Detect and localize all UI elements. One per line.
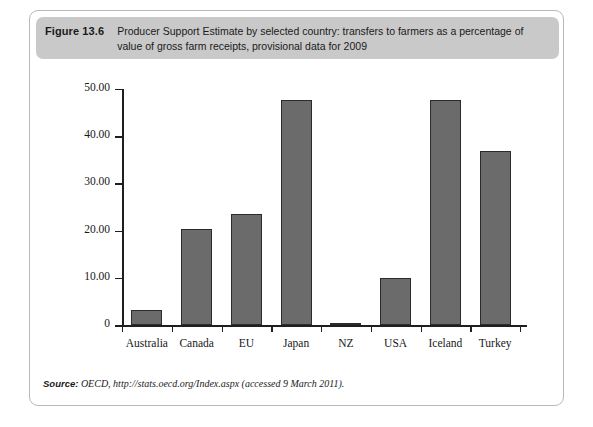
figure-header-banner: Figure 13.6 Producer Support Estimate by… — [36, 17, 559, 59]
y-axis-tick-label: 20.00 — [84, 223, 110, 235]
figure-source: Source: OECD, http://stats.oecd.org/Inde… — [43, 378, 344, 389]
chart-plot-area: 010.0020.0030.0040.0050.00 AustraliaCana… — [30, 67, 563, 357]
x-axis-tick — [222, 325, 223, 332]
y-axis-tick: 10.00 — [115, 278, 122, 279]
bar-turkey — [480, 151, 511, 325]
category-label-nz: NZ — [338, 337, 353, 349]
category-label-eu: EU — [239, 337, 254, 349]
source-label: Source: — [43, 378, 78, 389]
y-axis-tick-label: 50.00 — [84, 81, 110, 93]
y-axis-tick: 20.00 — [115, 231, 122, 232]
plot-canvas: 010.0020.0030.0040.0050.00 AustraliaCana… — [122, 89, 520, 325]
x-axis-tick — [172, 325, 173, 332]
x-axis-tick — [321, 325, 322, 332]
y-axis-tick-label: 30.00 — [84, 175, 110, 187]
category-label-usa: USA — [384, 337, 407, 349]
bar-iceland — [430, 100, 461, 325]
y-axis-line — [122, 89, 124, 325]
figure-caption-text: Producer Support Estimate by selected co… — [117, 24, 549, 53]
x-axis-tick — [421, 325, 422, 332]
category-label-iceland: Iceland — [428, 337, 462, 349]
category-label-canada: Canada — [179, 337, 213, 349]
figure-number-label: Figure 13.6 — [45, 24, 104, 38]
figure-card: Figure 13.6 Producer Support Estimate by… — [29, 10, 564, 406]
y-axis-tick-label: 10.00 — [84, 270, 110, 282]
category-label-australia: Australia — [126, 337, 168, 349]
x-axis-tick — [122, 325, 123, 332]
bar-usa — [380, 278, 411, 325]
bar-canada — [181, 229, 212, 325]
bar-australia — [131, 310, 162, 325]
x-axis-tick — [470, 325, 471, 332]
y-axis-tick: 50.00 — [115, 89, 122, 90]
y-axis-tick: 40.00 — [115, 136, 122, 137]
y-axis-tick: 30.00 — [115, 183, 122, 184]
x-axis-tick — [371, 325, 372, 332]
bar-japan — [281, 100, 312, 325]
y-axis-tick-label: 40.00 — [84, 128, 110, 140]
x-axis-tick — [520, 325, 521, 332]
source-text: OECD, http://stats.oecd.org/Index.aspx (… — [81, 378, 344, 389]
bar-nz — [330, 323, 361, 325]
x-axis-tick — [271, 325, 272, 332]
y-axis-tick: 0 — [115, 325, 122, 326]
y-axis-tick-label: 0 — [104, 317, 110, 329]
bar-eu — [231, 214, 262, 325]
category-label-turkey: Turkey — [479, 337, 512, 349]
category-label-japan: Japan — [283, 337, 309, 349]
